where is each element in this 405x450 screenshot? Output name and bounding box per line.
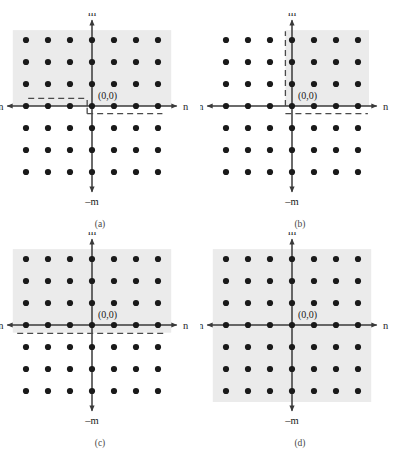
lattice-dot [311,278,317,284]
lattice-dot [311,37,317,43]
lattice-dot [133,147,139,153]
lattice-dot [289,37,295,43]
lattice-dot [155,37,161,43]
lattice-dot [333,278,339,284]
lattice-dot [289,322,295,328]
lattice-dot [223,366,229,372]
lattice-dot [133,37,139,43]
lattice-dot [155,125,161,131]
lattice-dot [45,103,51,109]
lattice-dot [155,169,161,175]
lattice-dot [111,81,117,87]
lattice-dot [111,300,117,306]
lattice-dot [133,169,139,175]
lattice-dot [245,147,251,153]
lattice-dot [23,278,29,284]
lattice-dot [245,278,251,284]
lattice-dot [111,103,117,109]
lattice-dot [111,278,117,284]
lattice-dot [89,344,95,350]
lattice-dot [23,388,29,394]
lattice-dot [67,366,73,372]
lattice-dot [23,300,29,306]
lattice-dot [267,278,273,284]
lattice-dot [267,366,273,372]
lattice-dot [289,344,295,350]
lattice-dot [111,322,117,328]
axis-label-m: m [288,13,296,18]
lattice-dot [333,125,339,131]
lattice-dot [289,125,295,131]
panel-c-plot: m–mn–n(0,0) [0,232,200,428]
lattice-dot [289,81,295,87]
lattice-dot [223,147,229,153]
axis-label-m: m [288,232,296,237]
lattice-dot [245,388,251,394]
lattice-dot [311,322,317,328]
lattice-dot [155,366,161,372]
lattice-dot [45,169,51,175]
lattice-dot [267,300,273,306]
lattice-dot [111,59,117,65]
lattice-dot [311,344,317,350]
lattice-dot [223,59,229,65]
lattice-dot [23,344,29,350]
lattice-dot [267,169,273,175]
lattice-dot [23,322,29,328]
axis-label-minus-n: –n [200,320,204,331]
lattice-dot [155,300,161,306]
lattice-dot [23,169,29,175]
lattice-dot [89,147,95,153]
lattice-dot [245,37,251,43]
lattice-dot [45,125,51,131]
lattice-dot [223,37,229,43]
lattice-dot [111,256,117,262]
lattice-dot [89,322,95,328]
axis-label-minus-n: –n [200,101,204,112]
lattice-dot [267,59,273,65]
figure-panel-c: m–mn–n(0,0) (c) [0,232,200,450]
axis-label-minus-m: –m [284,415,298,426]
lattice-dot [155,147,161,153]
lattice-dot [23,147,29,153]
origin-label: (0,0) [98,309,117,321]
lattice-dot [311,103,317,109]
lattice-dot [23,37,29,43]
lattice-dot [267,125,273,131]
axis-label-m: m [88,232,96,237]
lattice-dot [333,300,339,306]
axis-label-minus-m: –m [84,415,98,426]
lattice-dot [355,147,361,153]
lattice-dot [23,81,29,87]
lattice-dot [155,278,161,284]
lattice-dot [355,366,361,372]
lattice-dot [333,81,339,87]
axis-label-n: n [183,101,189,112]
lattice-dot [289,300,295,306]
lattice-dot [311,81,317,87]
lattice-dot [355,103,361,109]
lattice-dot [45,37,51,43]
lattice-dot [355,125,361,131]
lattice-dot [111,125,117,131]
lattice-dot [267,344,273,350]
lattice-dot [223,278,229,284]
lattice-dot [111,37,117,43]
lattice-dot [333,322,339,328]
axis-label-m: m [88,13,96,18]
lattice-dot [355,300,361,306]
lattice-dot [89,300,95,306]
lattice-dot [355,37,361,43]
lattice-dot [289,278,295,284]
lattice-dot [311,169,317,175]
lattice-dot [333,344,339,350]
lattice-dot [89,103,95,109]
lattice-dot [133,388,139,394]
lattice-dot [355,169,361,175]
running-head [0,0,405,12]
lattice-dot [333,103,339,109]
lattice-dot [355,388,361,394]
lattice-dot [67,322,73,328]
lattice-dot [133,81,139,87]
axis-label-n: n [383,320,389,331]
